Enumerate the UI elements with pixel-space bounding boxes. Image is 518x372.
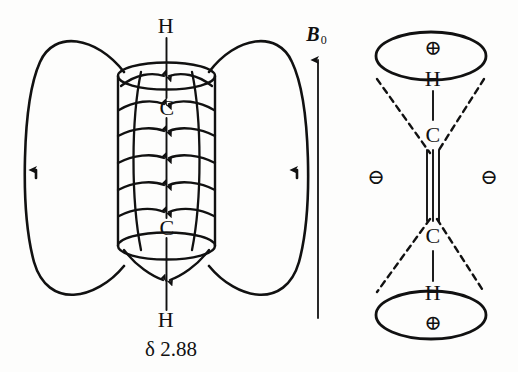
right-negative-charge-label: ⊖ (480, 167, 498, 188)
field-line-loop-left (25, 41, 124, 295)
right-bottom-carbon-label: C (425, 225, 440, 247)
top-positive-charge-label: ⊕ (424, 38, 442, 59)
bottom-positive-charge-label: ⊕ (424, 313, 442, 334)
applied-field-symbol: B (306, 23, 319, 45)
applied-field-label: B0 (306, 24, 325, 44)
left-negative-charge-label: ⊖ (367, 167, 385, 188)
right-bottom-hydrogen-label: H (425, 282, 441, 304)
acetylene-bonds (427, 91, 439, 281)
figure-canvas: H C C H δ 2.88 B0 ⊕ H C C H ⊕ ⊖ ⊖ (0, 0, 518, 372)
chemical-shift-label: δ 2.88 (145, 339, 197, 360)
field-line-loop-right (209, 41, 308, 295)
left-top-hydrogen-label: H (158, 15, 174, 37)
right-top-hydrogen-label: H (425, 68, 441, 90)
left-top-carbon-label: C (159, 97, 174, 119)
applied-field-subscript: 0 (321, 33, 327, 47)
left-bottom-hydrogen-label: H (158, 309, 174, 331)
right-top-carbon-label: C (425, 124, 440, 146)
left-bottom-carbon-label: C (159, 217, 174, 239)
shielding-cone-dashed-lines (377, 79, 484, 292)
